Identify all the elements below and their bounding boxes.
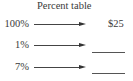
percent-label: 100% bbox=[5, 17, 30, 31]
right-arrow-icon bbox=[34, 23, 86, 26]
answer-blank[interactable] bbox=[92, 73, 125, 74]
amount-value: $25 bbox=[108, 17, 124, 31]
percent-row-7: 7% bbox=[0, 60, 133, 74]
percent-row-1: 1% bbox=[0, 38, 133, 52]
percent-label: 7% bbox=[15, 60, 29, 74]
percent-label: 1% bbox=[15, 38, 29, 52]
right-arrow-icon bbox=[34, 44, 86, 47]
percent-row-100: 100% $25 bbox=[0, 17, 133, 31]
table-title: Percent table bbox=[37, 0, 92, 12]
right-arrow-icon bbox=[34, 66, 86, 69]
answer-blank[interactable] bbox=[92, 52, 125, 53]
